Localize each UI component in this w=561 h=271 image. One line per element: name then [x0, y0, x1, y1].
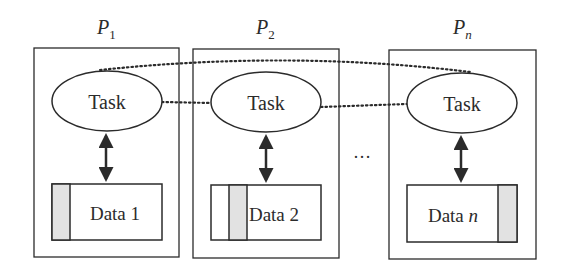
processor-n: Pn Task Data n [389, 16, 536, 259]
data-label: Data n [428, 205, 478, 226]
task-label: Task [247, 92, 284, 114]
processor-label: P2 [255, 16, 275, 42]
processor-1: P1 Task Data 1 [34, 16, 179, 257]
data-label: Data 1 [90, 203, 140, 224]
diagram-canvas: P1 Task Data 1 P2 Task Data 2 … Pn Task … [0, 0, 561, 271]
more-processors-ellipsis: … [353, 142, 371, 162]
task-link-2-n [321, 104, 407, 107]
data-shaded-segment [52, 184, 70, 240]
data-label: Data 2 [249, 204, 299, 225]
data-shaded-segment [498, 185, 517, 242]
processor-2: P2 Task Data 2 [193, 16, 339, 258]
processor-label: Pn [452, 16, 472, 42]
processor-label: P1 [96, 16, 116, 42]
task-link-1-2 [162, 102, 211, 103]
task-link-1-n [100, 60, 470, 72]
task-label: Task [88, 91, 125, 113]
data-shaded-segment [229, 185, 247, 240]
task-label: Task [443, 93, 480, 115]
